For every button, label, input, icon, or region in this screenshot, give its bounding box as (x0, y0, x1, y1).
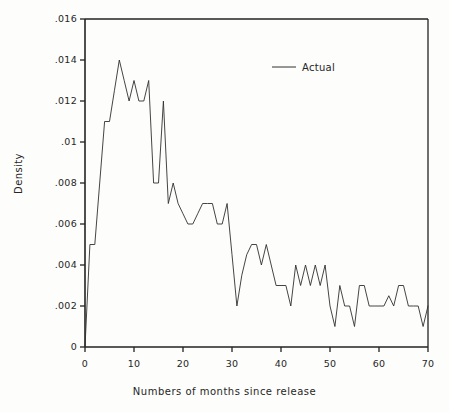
x-tick-label: 30 (212, 358, 252, 369)
x-tick-label: 60 (359, 358, 399, 369)
x-tick-label: 50 (310, 358, 350, 369)
x-tick-label: 70 (408, 358, 448, 369)
legend-label-actual: Actual (302, 62, 335, 73)
x-axis-title: Numbers of months since release (0, 386, 449, 397)
y-tick-label: .008 (23, 177, 77, 188)
series-line-actual (85, 60, 428, 347)
x-tick-label: 40 (261, 358, 301, 369)
chart-figure: Density Numbers of months since release … (0, 0, 449, 413)
axes-frame (85, 19, 428, 347)
y-tick-label: .004 (23, 259, 77, 270)
y-tick-label: .016 (23, 13, 77, 24)
y-tick-label: .01 (23, 136, 77, 147)
x-tick-label: 0 (65, 358, 105, 369)
y-tick-label: .014 (23, 54, 77, 65)
y-tick-label: .006 (23, 218, 77, 229)
y-axis-title: Density (13, 134, 24, 214)
x-tick-label: 10 (114, 358, 154, 369)
y-tick-label: .002 (23, 300, 77, 311)
series-group (85, 60, 428, 347)
y-tick-label: 0 (23, 341, 77, 352)
y-tick-label: .012 (23, 95, 77, 106)
x-tick-label: 20 (163, 358, 203, 369)
